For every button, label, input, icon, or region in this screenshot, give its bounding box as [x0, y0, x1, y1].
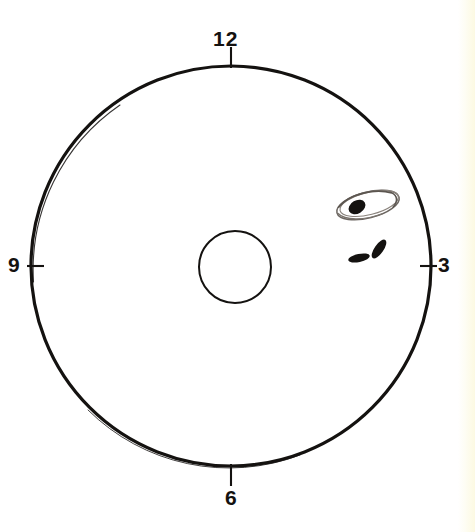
retinal-tear-outline-stroke-1 — [334, 185, 402, 226]
clock-label-12: 12 — [213, 28, 238, 49]
retinal-fundus-diagram: 12 3 6 9 — [0, 0, 475, 532]
retina-boundary-circle — [31, 66, 431, 466]
fundus-chart-canvas — [0, 0, 475, 532]
hemorrhage-mark-right — [369, 237, 389, 260]
clock-label-3: 3 — [438, 254, 451, 275]
clock-label-6: 6 — [225, 487, 238, 508]
lesion-blob-primary — [346, 197, 368, 217]
hemorrhage-mark-left — [347, 252, 370, 264]
retinal-tear-outline-group — [334, 185, 402, 226]
retina-boundary-thickening-lower — [88, 410, 300, 468]
clock-label-9: 9 — [8, 254, 21, 275]
optic-disc-circle — [199, 231, 271, 303]
